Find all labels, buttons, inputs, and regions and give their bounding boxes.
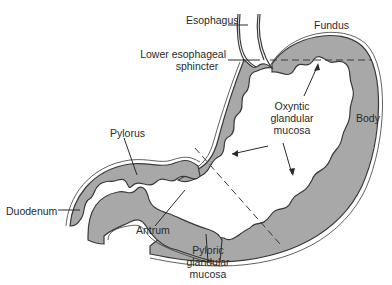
oxyntic-line2: glandular: [262, 112, 322, 124]
oxyntic-line1: Oxyntic: [262, 100, 322, 112]
les-line1: Lower esophageal: [140, 48, 226, 60]
les-line2: sphincter: [154, 60, 240, 72]
label-body: Body: [356, 112, 380, 124]
label-duodenum: Duodenum: [6, 205, 57, 217]
label-antrum: Antrum: [136, 224, 170, 236]
pyloric-line2: glandular: [180, 256, 236, 268]
stomach-diagram: [0, 0, 392, 285]
label-lower-esophageal-sphincter: Lower esophageal sphincter: [140, 48, 226, 72]
pyloric-line3: mucosa: [180, 268, 236, 280]
label-fundus: Fundus: [314, 19, 349, 31]
label-pylorus: Pylorus: [110, 127, 145, 139]
label-oxyntic-glandular-mucosa: Oxyntic glandular mucosa: [262, 100, 322, 136]
label-pyloric-glandular-mucosa: Pyloric glandular mucosa: [180, 244, 236, 280]
label-esophagus: Esophagus: [186, 14, 239, 26]
oxyntic-line3: mucosa: [262, 124, 322, 136]
pyloric-line1: Pyloric: [180, 244, 236, 256]
